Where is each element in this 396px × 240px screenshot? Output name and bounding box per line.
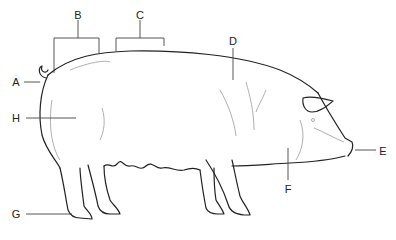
tail-outline	[39, 66, 48, 78]
hind-leg-back	[60, 168, 92, 219]
ear-outline	[303, 97, 333, 112]
label-b: B	[74, 10, 81, 21]
bracket-c	[116, 20, 164, 51]
label-a: A	[12, 77, 19, 88]
front-leg-front	[206, 160, 250, 215]
label-c: C	[136, 10, 144, 21]
label-f: F	[285, 184, 292, 195]
label-e: E	[379, 146, 386, 157]
label-g: G	[12, 209, 21, 220]
back-outline	[48, 51, 318, 93]
pig-diagram: A B C D E F G H	[0, 0, 396, 240]
head-outline	[318, 93, 353, 156]
belly-outline	[104, 162, 200, 171]
label-d: D	[229, 36, 237, 47]
bracket-b	[54, 20, 99, 73]
label-h: H	[12, 113, 20, 124]
front-leg-back	[200, 168, 224, 214]
pig-drawing	[0, 0, 396, 240]
